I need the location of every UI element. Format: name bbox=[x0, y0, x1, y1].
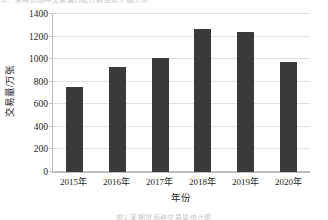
bar bbox=[237, 32, 254, 172]
plot-area: 0200400600800100012001400 bbox=[52, 14, 310, 173]
y-tick-label: 600 bbox=[34, 99, 48, 109]
x-tick-label: 2017年 bbox=[138, 175, 181, 188]
bar bbox=[109, 67, 126, 172]
x-tick-label: 2015年 bbox=[52, 175, 95, 188]
chart-page: 年、某期货品种交易量的统计数据如下图所示 交易量/万张 020040060080… bbox=[0, 0, 328, 220]
bar-slot bbox=[96, 14, 139, 172]
bar bbox=[280, 62, 297, 172]
y-tick-label: 200 bbox=[34, 144, 48, 154]
bar-slot bbox=[53, 14, 96, 172]
y-tick-label: 1000 bbox=[29, 54, 48, 64]
bar-slot bbox=[139, 14, 182, 172]
bar-slot bbox=[267, 14, 310, 172]
x-tick-label: 2016年 bbox=[95, 175, 138, 188]
y-tick-label: 400 bbox=[34, 122, 48, 132]
x-axis-title: 年份 bbox=[52, 190, 310, 204]
bar bbox=[152, 58, 169, 172]
x-axis-tick-labels: 2015年2016年2017年2018年2019年2020年 bbox=[52, 175, 310, 188]
truncated-top-text: 年、某期货品种交易量的统计数据如下图所示 bbox=[0, 0, 328, 4]
y-tick-label: 800 bbox=[34, 77, 48, 87]
y-tick-label: 1400 bbox=[29, 9, 48, 19]
y-axis-title-text: 交易量/万张 bbox=[2, 65, 16, 118]
y-tick-label: 1200 bbox=[29, 32, 48, 42]
x-tick-label: 2020年 bbox=[267, 175, 310, 188]
x-tick-label: 2019年 bbox=[224, 175, 267, 188]
truncated-bottom-caption: 图1 某期货品种交易量统计图 bbox=[0, 214, 328, 220]
bar bbox=[66, 87, 83, 172]
bar-slot bbox=[181, 14, 224, 172]
bars-group bbox=[53, 14, 310, 172]
bar-slot bbox=[224, 14, 267, 172]
x-tick-label: 2018年 bbox=[181, 175, 224, 188]
bar bbox=[194, 29, 211, 172]
y-tick-label: 0 bbox=[43, 167, 48, 177]
y-axis-title: 交易量/万张 bbox=[2, 36, 16, 146]
